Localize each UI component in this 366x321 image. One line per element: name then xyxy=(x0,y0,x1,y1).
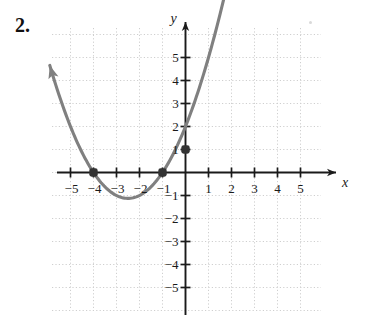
worksheet-figure: 2. −5−4−3−2−11234554321−1−2−3−4−5 x y xyxy=(0,0,366,321)
plot-point xyxy=(181,145,189,153)
plot-point xyxy=(89,168,97,176)
x-tick-label: 1 xyxy=(205,181,212,197)
axes xyxy=(57,22,336,315)
parabola-curve xyxy=(48,0,287,198)
y-axis-label: y xyxy=(170,11,176,27)
coordinate-plane xyxy=(0,0,366,321)
x-tick-label: −4 xyxy=(88,181,102,197)
x-axis-label: x xyxy=(342,175,348,191)
x-tick-label: −2 xyxy=(134,181,148,197)
y-tick-label: −3 xyxy=(165,234,179,250)
y-tick-label: 4 xyxy=(172,73,179,89)
plot-point xyxy=(158,168,166,176)
y-tick-label: −1 xyxy=(165,188,179,204)
y-tick-label: −4 xyxy=(165,257,179,273)
y-tick-label: −2 xyxy=(165,211,179,227)
x-tick-label: 3 xyxy=(251,181,258,197)
y-tick-label: −5 xyxy=(165,280,179,296)
x-tick-label: −5 xyxy=(65,181,79,197)
x-tick-label: 5 xyxy=(297,181,304,197)
y-tick-label: 2 xyxy=(172,119,179,135)
y-tick-label: 1 xyxy=(172,142,179,158)
x-tick-label: 2 xyxy=(228,181,235,197)
x-tick-label: −3 xyxy=(111,181,125,197)
y-tick-label: 5 xyxy=(172,50,179,66)
x-tick-label: 4 xyxy=(274,181,281,197)
y-tick-label: 3 xyxy=(172,96,179,112)
